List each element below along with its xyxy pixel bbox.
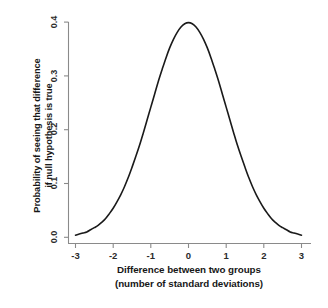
x-tick-label-2: -1: [140, 250, 162, 261]
x-tick-label-3: 0: [178, 250, 200, 261]
normal-curve: [76, 23, 302, 236]
x-axis-title-line1: Difference between two groups: [68, 263, 310, 277]
y-tick-label-4: 0.4: [49, 9, 59, 35]
normal-distribution-figure: Probability of seeing that difference if…: [0, 0, 328, 308]
y-tick-label-1: 0.1: [49, 170, 59, 196]
y-axis-ticks: [64, 22, 69, 237]
x-tick-label-1: -2: [102, 250, 124, 261]
y-tick-label-3: 0.3: [49, 63, 59, 89]
x-axis-ticks: [76, 244, 302, 249]
x-tick-label-0: -3: [65, 250, 87, 261]
x-tick-label-5: 2: [253, 250, 275, 261]
x-tick-label-6: 3: [291, 250, 313, 261]
y-tick-label-0: 0.0: [49, 224, 59, 250]
x-tick-label-4: 1: [215, 250, 237, 261]
x-axis-title: Difference between two groups (number of…: [68, 263, 310, 290]
y-tick-label-2: 0.2: [49, 116, 59, 142]
y-axis-title-line1: Probability of seeing that difference: [32, 21, 44, 251]
x-axis-title-line2: (number of standard deviations): [68, 277, 310, 291]
